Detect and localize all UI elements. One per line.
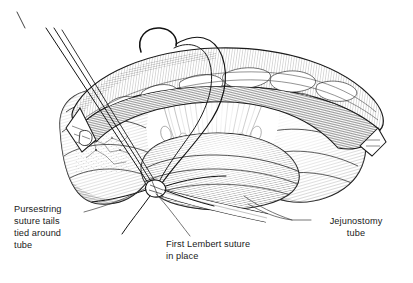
- suture-knot: [146, 180, 166, 197]
- label-first-lembert-suture: First Lembert suture in place: [166, 238, 250, 262]
- label-pursestring-suture-tails: Pursestring suture tails tied around tub…: [14, 203, 62, 251]
- label-jejunostomy-tube: Jejunostomy tube: [313, 215, 399, 239]
